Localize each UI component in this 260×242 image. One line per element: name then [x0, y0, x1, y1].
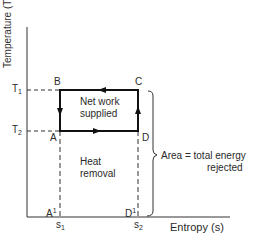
point-a-prime-label: A1	[46, 205, 57, 219]
s2-label: s2	[134, 219, 143, 233]
heat-removal-label-line1: Heat	[80, 156, 101, 167]
point-d-prime-label: D1	[125, 205, 136, 219]
arrow-up-icon	[135, 106, 141, 114]
arrow-down-icon	[57, 108, 63, 116]
area-annotation-line2: rejected	[207, 162, 243, 173]
point-a-label: A	[50, 132, 57, 143]
net-work-label-line1: Net work	[80, 96, 119, 107]
point-c-label: C	[135, 76, 142, 87]
s1-label: s1	[56, 219, 65, 233]
x-axis-label: Entropy (s)	[170, 222, 224, 233]
point-d-label: D	[142, 132, 149, 143]
point-b-label: B	[54, 76, 61, 87]
area-annotation-line1: Area = total energy	[161, 150, 246, 161]
arrow-left-icon	[98, 87, 106, 93]
heat-removal-label-line2: removal	[80, 168, 116, 179]
net-work-label-line2: supplied	[80, 108, 117, 119]
area-bracket	[147, 91, 157, 216]
arrow-right-icon	[93, 128, 101, 134]
y-axis-label: Temperature (T)	[2, 0, 13, 68]
t2-label: T2	[12, 124, 22, 138]
t1-label: T1	[12, 83, 22, 97]
